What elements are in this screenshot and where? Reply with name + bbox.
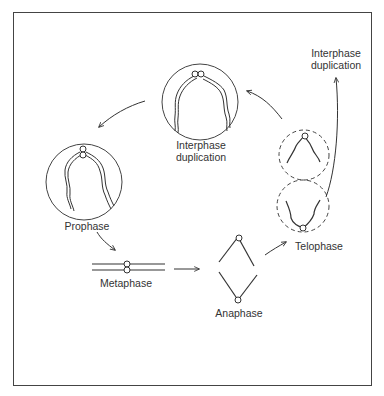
arrow-anaphase-to-telophase — [265, 242, 286, 255]
telophase-label: Telophase — [292, 240, 346, 252]
interphase-top-label-line2: duplication — [168, 151, 234, 163]
interphase-top-label: Interphase duplication — [168, 139, 234, 163]
interphase-right-label: Interphase duplication — [300, 47, 372, 71]
arrow-interphase-to-prophase — [99, 101, 145, 127]
anaphase-label: Anaphase — [214, 307, 264, 319]
metaphase-chromosome — [92, 261, 165, 273]
interphase-cell-top — [162, 64, 238, 140]
arrow-telophase-to-interphase-top — [247, 91, 282, 119]
anaphase-chromosomes — [219, 235, 257, 303]
arrow-prophase-to-metaphase — [97, 232, 115, 250]
prophase-label: Prophase — [62, 220, 112, 232]
telophase-cell-upper — [279, 130, 329, 180]
interphase-top-label-line1: Interphase — [168, 139, 234, 151]
metaphase-label: Metaphase — [98, 277, 154, 289]
interphase-right-label-line1: Interphase — [300, 47, 372, 59]
telophase-cell-lower — [277, 180, 329, 232]
interphase-right-label-line2: duplication — [300, 59, 372, 71]
prophase-cell — [46, 144, 122, 220]
arrow-telophase-to-interphase-right — [326, 78, 338, 197]
